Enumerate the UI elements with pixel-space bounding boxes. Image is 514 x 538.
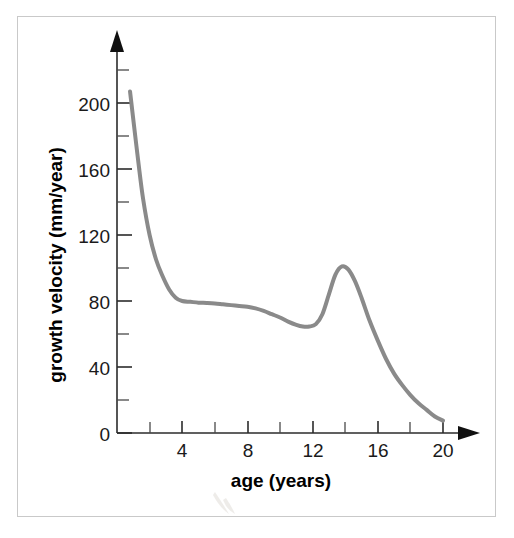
x-tick-label-20: 20 bbox=[432, 440, 453, 461]
y-tick-label-160: 160 bbox=[78, 160, 110, 181]
x-tick-label-4: 4 bbox=[177, 440, 188, 461]
y-tick-label-0: 0 bbox=[99, 424, 110, 445]
y-tick-label-200: 200 bbox=[78, 94, 110, 115]
x-axis-tick-labels: 4 8 12 16 20 bbox=[177, 440, 454, 461]
x-tick-label-16: 16 bbox=[367, 440, 388, 461]
y-axis-ticks bbox=[117, 70, 132, 433]
x-axis-ticks bbox=[150, 421, 443, 433]
x-axis-arrow-icon bbox=[458, 426, 480, 440]
y-axis-tick-labels: 0 40 80 120 160 200 bbox=[78, 94, 110, 445]
y-tick-label-80: 80 bbox=[89, 292, 110, 313]
y-axis-arrow-icon bbox=[110, 30, 124, 52]
figure-page: 0 40 80 120 160 200 4 8 12 16 20 bbox=[0, 0, 514, 538]
x-tick-label-12: 12 bbox=[302, 440, 323, 461]
growth-velocity-chart: 0 40 80 120 160 200 4 8 12 16 20 bbox=[0, 0, 514, 538]
axes-group bbox=[110, 30, 480, 440]
x-tick-label-8: 8 bbox=[243, 440, 254, 461]
growth-velocity-curve bbox=[130, 91, 443, 420]
y-tick-label-120: 120 bbox=[78, 226, 110, 247]
y-tick-label-40: 40 bbox=[89, 358, 110, 379]
y-axis-title: growth velocity (mm/year) bbox=[45, 147, 66, 382]
paper-smudge bbox=[213, 492, 235, 514]
x-axis-title: age (years) bbox=[231, 470, 331, 491]
